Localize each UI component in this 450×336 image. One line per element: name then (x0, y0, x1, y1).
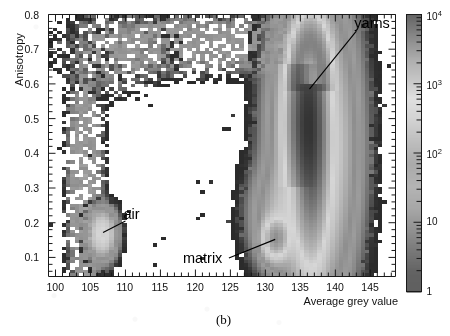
annotation-label-air: air (123, 206, 139, 222)
figure-caption: (b) (216, 312, 231, 328)
annotation-leader-lines (0, 0, 450, 336)
figure-panel-b: Anisotropy Average grey value 1001051101… (0, 0, 450, 336)
annotation-label-yarns: yarns (354, 15, 389, 31)
annotation-label-matrix: matrix (183, 250, 222, 266)
